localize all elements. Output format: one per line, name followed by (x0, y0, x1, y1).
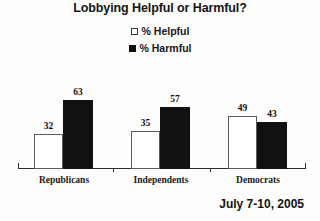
survey-date-footer: July 7-10, 2005 (219, 197, 304, 211)
bar-value-independents-helpful: 35 (131, 118, 160, 128)
category-label-democrats: Democrats (218, 175, 298, 185)
x-axis-right-cap (305, 163, 306, 169)
bar-independents-harmful (160, 107, 190, 169)
x-axis-tick-1 (113, 168, 114, 172)
chart-container: Lobbying Helpful or Harmful? % Helpful %… (0, 0, 320, 221)
bar-republicans-harmful (63, 100, 93, 169)
plot-area: 32 63 Republicans 35 57 Independents 49 … (0, 0, 320, 221)
category-label-independents: Independents (121, 175, 201, 185)
bar-value-democrats-harmful: 43 (257, 109, 287, 119)
bar-value-republicans-harmful: 63 (63, 87, 93, 97)
bar-value-democrats-helpful: 49 (228, 103, 257, 113)
bar-republicans-helpful (34, 134, 63, 169)
x-axis-left-cap (18, 163, 19, 169)
bar-value-independents-harmful: 57 (160, 94, 190, 104)
bar-democrats-helpful (228, 116, 257, 169)
bar-democrats-harmful (257, 122, 287, 169)
category-label-republicans: Republicans (24, 175, 104, 185)
x-axis-tick-2 (210, 168, 211, 172)
bar-independents-helpful (131, 131, 160, 169)
bar-value-republicans-helpful: 32 (34, 121, 63, 131)
